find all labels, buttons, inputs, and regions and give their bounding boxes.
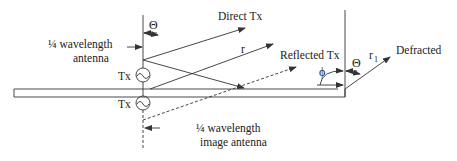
tx-label-lower: Tx xyxy=(118,98,131,110)
r-label: r xyxy=(241,43,245,55)
antenna-label-line1: ¼ wavelength xyxy=(48,38,113,51)
r1-subscript: 1 xyxy=(374,55,378,64)
direct-tx-label: Direct Tx xyxy=(218,10,262,22)
theta-left-label: Θ xyxy=(149,18,158,32)
phi-label: ϕ xyxy=(319,65,325,79)
tx-source-icon-lower xyxy=(136,96,150,110)
tx-source-icon-upper xyxy=(136,68,150,82)
defracted-label: Defracted xyxy=(396,44,442,56)
image-ray xyxy=(143,67,296,120)
antenna-label-line2: antenna xyxy=(73,52,109,64)
ground-plane xyxy=(14,89,345,97)
image-antenna-label-line2: image antenna xyxy=(200,136,267,149)
image-antenna-label-line1: ¼ wavelength xyxy=(196,122,261,135)
r-ray xyxy=(150,44,273,89)
direct-ray xyxy=(143,28,245,60)
incident-ray xyxy=(143,60,244,88)
antenna-reflection-diffraction-diagram: ¼ wavelength antenna Tx Tx ¼ wavelength … xyxy=(0,0,457,161)
theta-right-label: Θ xyxy=(352,56,361,70)
tx-label-upper: Tx xyxy=(118,70,131,82)
reflected-tx-label: Reflected Tx xyxy=(280,49,340,61)
r1-label: r xyxy=(369,49,373,61)
